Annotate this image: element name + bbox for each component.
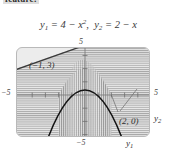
point-label-2-0: (2, 0): [119, 116, 139, 126]
figure-root: feature: y1 = 4 − x2, y2 = 2 − x: [0, 0, 177, 165]
axis-label-bottom: −5: [76, 138, 85, 147]
curve-label-y2: y2: [154, 113, 161, 124]
axis-label-top: 5: [79, 37, 83, 46]
equation-y2-subscript: 2: [99, 24, 103, 32]
axis-label-right: 5: [154, 88, 158, 97]
clipped-header-text: feature:: [3, 0, 39, 4]
equation-comma: ,: [86, 19, 89, 30]
equation-caption: y1 = 4 − x2, y2 = 2 − x: [0, 18, 177, 32]
curve-label-y1-subscript: 1: [130, 142, 133, 149]
equation-y2-body: = 2 − x: [105, 19, 137, 30]
curve-label-y1: y1: [126, 138, 133, 149]
curve-label-y2-subscript: 2: [158, 117, 161, 124]
axis-label-left: −5: [1, 88, 10, 97]
point-label-minus1-3: (−1, 3): [29, 60, 55, 70]
equation-y1-subscript: 1: [45, 24, 49, 32]
equation-y1-body: = 4 − x: [51, 19, 83, 30]
